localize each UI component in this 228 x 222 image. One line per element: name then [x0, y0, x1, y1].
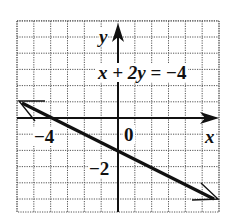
- equation-lhs: x + 2: [98, 62, 137, 83]
- tick-label-origin: 0: [123, 125, 135, 144]
- equation-rhs: = −4: [146, 62, 187, 83]
- tick-label-x-neg4: −4: [33, 127, 55, 146]
- x-axis-label: x: [204, 127, 216, 146]
- tick-label-y-neg2: −2: [88, 159, 110, 178]
- equation-y: y: [137, 62, 145, 83]
- y-axis-label: y: [99, 27, 107, 46]
- equation-label: x + 2y = −4: [96, 63, 188, 82]
- graph-canvas: [0, 0, 228, 222]
